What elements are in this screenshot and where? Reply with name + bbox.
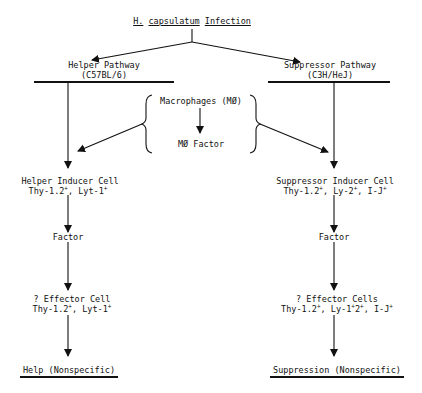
helper-factor: Factor	[53, 232, 84, 242]
helper-effector-markers: Thy-1.2+, Lyt-1+	[33, 304, 112, 314]
helper-pathway-title: Helper Pathway	[68, 60, 140, 70]
suppressor-pathway-title: Suppressor Pathway	[284, 60, 376, 70]
suppressor-strain: (C3H/HeJ)	[307, 70, 353, 80]
helper-strain: (C57BL/6)	[81, 70, 127, 80]
root-word: Infection	[205, 16, 251, 26]
macrophages-label: Macrophages (MØ)	[160, 96, 242, 106]
suppressor-inducer-cell: Suppressor Inducer Cell	[276, 176, 394, 186]
suppressor-factor: Factor	[319, 232, 350, 242]
macrophage-factor-label: MØ Factor	[178, 139, 224, 149]
right-brace	[250, 95, 260, 153]
suppressor-effector-markers: Thy-1.2+, Ly-1+2+, I-J+	[281, 304, 393, 314]
suppressor-outcome: Suppression (Nonspecific)	[273, 365, 401, 375]
root-genus: capsulatum	[149, 16, 200, 26]
root-species: H.	[133, 16, 143, 26]
helper-inducer-markers: Thy-1.2+, Lyt-1+	[29, 186, 108, 196]
arrow-to-suppressor	[192, 42, 300, 62]
suppressor-effector-cell: ? Effector Cells	[296, 294, 378, 304]
arrow-mac-to-suppressor	[260, 124, 328, 152]
arrow-to-helper	[92, 42, 192, 60]
connector-lines	[0, 0, 422, 393]
infection-title: H. capsulatum Infection	[133, 16, 251, 26]
helper-effector-cell: ? Effector Cell	[34, 294, 111, 304]
left-brace	[142, 95, 152, 153]
helper-outcome: Help (Nonspecific)	[23, 365, 115, 375]
suppressor-inducer-markers: Thy-1.2+, Ly-2+, I-J+	[283, 186, 386, 196]
arrow-mac-to-helper	[78, 124, 142, 151]
